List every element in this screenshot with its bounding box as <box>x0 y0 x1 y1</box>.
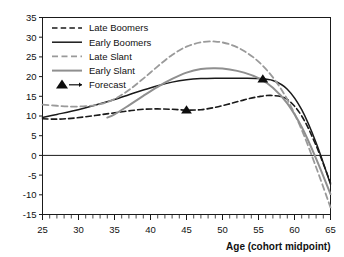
y-tick-label: 25 <box>26 51 37 62</box>
x-tick-label: 40 <box>145 224 156 235</box>
x-axis-title: Age (cohort midpoint) <box>226 241 330 252</box>
legend-label-early-boomers: Early Boomers <box>89 37 152 48</box>
legend-label-late-boomers: Late Boomers <box>89 22 148 33</box>
x-tick-label: 45 <box>181 224 192 235</box>
y-tick-label: 15 <box>26 91 37 102</box>
y-tick-label: 35 <box>26 12 37 23</box>
x-tick-label: 35 <box>109 224 120 235</box>
y-tick-label: 10 <box>26 110 37 121</box>
x-tick-label: 30 <box>73 224 84 235</box>
y-tick-label: -15 <box>23 209 37 220</box>
x-axis-title-label: Age (cohort midpoint) <box>226 241 330 252</box>
legend-label-late-slant: Late Slant <box>89 51 132 62</box>
legend-label-early-slant: Early Slant <box>89 65 135 76</box>
line-chart: -15-10-505101520253035 25303540455055606… <box>0 0 344 257</box>
y-tick-label: -10 <box>23 189 37 200</box>
y-tick-label: 5 <box>31 130 36 141</box>
x-tick-label: 65 <box>325 224 336 235</box>
x-axis-tick-labels: 253035404550556065 <box>37 224 336 235</box>
x-tick-label: 55 <box>253 224 264 235</box>
y-tick-label: 30 <box>26 32 37 43</box>
chart-container: -15-10-505101520253035 25303540455055606… <box>0 0 344 257</box>
x-tick-label: 25 <box>37 224 48 235</box>
x-tick-label: 60 <box>289 224 300 235</box>
y-tick-label: 20 <box>26 71 37 82</box>
legend-label-forecast: Forecast <box>89 79 126 90</box>
x-tick-label: 50 <box>217 224 228 235</box>
y-tick-label: 0 <box>31 150 36 161</box>
y-tick-label: -5 <box>28 170 36 181</box>
